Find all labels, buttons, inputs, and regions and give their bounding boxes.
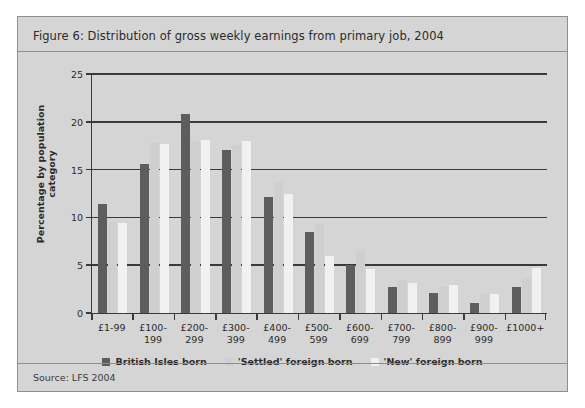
x-axis-tick-label-line: 199 — [132, 334, 173, 346]
plot-area: 0510152025 — [91, 74, 547, 314]
x-axis-ticks — [91, 314, 546, 320]
bar-group — [92, 74, 133, 313]
x-axis-tick — [545, 314, 547, 320]
x-axis-tick — [174, 314, 176, 320]
x-axis-tick — [463, 314, 465, 320]
bar-group — [382, 74, 423, 313]
legend-label: British Isles born — [115, 356, 206, 367]
bar-group — [299, 74, 340, 313]
x-axis-tick-label: £900-999 — [463, 322, 504, 345]
x-axis-tick-label: £300-399 — [215, 322, 256, 345]
bar — [480, 294, 489, 313]
bar — [439, 287, 448, 313]
x-axis-tick-label-line: £600- — [339, 322, 380, 334]
chart-legend: British Isles born'Settled' foreign born… — [18, 356, 567, 367]
x-axis-tick-label-line: £300- — [215, 322, 256, 334]
x-axis-tick-label-line: £200- — [174, 322, 215, 334]
bar — [398, 280, 407, 313]
bar-group — [423, 74, 464, 313]
bar — [201, 140, 210, 313]
bar — [408, 283, 417, 313]
x-axis-tick — [381, 314, 383, 320]
legend-label: 'Settled' foreign born — [238, 356, 353, 367]
x-axis-labels: £1-99£100-199£200-299£300-399£400-499£50… — [91, 322, 546, 345]
bar — [284, 194, 293, 313]
x-axis-tick-label-line: 299 — [174, 334, 215, 346]
bar — [222, 150, 231, 313]
x-axis-tick — [256, 314, 258, 320]
chart-area: Percentage by population category 051015… — [18, 51, 567, 365]
source-note: Source: LFS 2004 — [33, 372, 116, 383]
bar — [191, 141, 200, 313]
bar-group — [133, 74, 174, 313]
x-axis-tick-label-line: £700- — [381, 322, 422, 334]
bar-group — [257, 74, 298, 313]
y-axis-tick-label: 10 — [71, 212, 83, 223]
x-axis-tick-label: £500-599 — [298, 322, 339, 345]
bar-group — [216, 74, 257, 313]
x-axis-tick-label-line: £1-99 — [91, 322, 132, 334]
legend-swatch-icon — [371, 358, 379, 366]
x-axis-tick-label: £200-299 — [174, 322, 215, 345]
x-axis-tick-label-line: £900- — [463, 322, 504, 334]
bar — [315, 224, 324, 313]
source-divider — [18, 363, 567, 364]
bar — [522, 278, 531, 313]
legend-item: 'New' foreign born — [371, 356, 483, 367]
x-axis-tick — [298, 314, 300, 320]
x-axis-tick — [132, 314, 134, 320]
x-axis-tick-label-line: £500- — [298, 322, 339, 334]
bar — [325, 256, 334, 313]
bar — [140, 164, 149, 313]
x-axis-tick — [91, 314, 93, 320]
x-axis-tick — [505, 314, 507, 320]
bar — [356, 251, 365, 313]
x-axis-tick-label: £700-799 — [381, 322, 422, 345]
x-axis-tick-label-line: 499 — [256, 334, 297, 346]
figure-title: Figure 6: Distribution of gross weekly e… — [33, 29, 444, 43]
x-axis-tick-label: £100-199 — [132, 322, 173, 345]
x-axis-tick-label: £400-499 — [256, 322, 297, 345]
bar-group — [175, 74, 216, 313]
x-axis-tick-label-line: £100- — [132, 322, 173, 334]
x-axis-tick-label-line: 599 — [298, 334, 339, 346]
x-axis-tick — [215, 314, 217, 320]
bar — [264, 197, 273, 313]
bar — [490, 294, 499, 313]
x-axis-tick — [422, 314, 424, 320]
y-axis-tick-label: 20 — [71, 116, 83, 127]
bar-group — [506, 74, 547, 313]
bar — [150, 143, 159, 313]
bar — [512, 287, 521, 313]
x-axis-tick — [339, 314, 341, 320]
x-axis-tick-label-line: 399 — [215, 334, 256, 346]
x-axis-tick-label: £1-99 — [91, 322, 132, 345]
bar — [118, 223, 127, 313]
bar — [346, 265, 355, 313]
x-axis-tick-label-line: £400- — [256, 322, 297, 334]
bar-group — [464, 74, 505, 313]
legend-label: 'New' foreign born — [384, 356, 483, 367]
x-axis-tick-label-line: £800- — [422, 322, 463, 334]
bar — [160, 144, 169, 313]
bar — [305, 232, 314, 313]
x-axis-tick-label-line: £1000+ — [505, 322, 546, 334]
figure-page: Figure 6: Distribution of gross weekly e… — [0, 0, 585, 408]
bar — [429, 293, 438, 313]
x-axis-tick-label: £1000+ — [505, 322, 546, 345]
bar — [366, 269, 375, 313]
bar — [470, 303, 479, 313]
y-axis-title: Percentage by population category — [35, 84, 57, 264]
bar — [232, 145, 241, 313]
legend-item: 'Settled' foreign born — [225, 356, 353, 367]
x-axis-tick-label-line: 999 — [463, 334, 504, 346]
legend-item: British Isles born — [102, 356, 206, 367]
y-axis-tick-label: 0 — [77, 308, 83, 319]
y-axis-tick-label: 5 — [77, 260, 83, 271]
legend-swatch-icon — [102, 358, 110, 366]
bar — [181, 114, 190, 313]
y-axis-tick-label: 15 — [71, 164, 83, 175]
x-axis-tick-label-line: 699 — [339, 334, 380, 346]
bar-group — [340, 74, 381, 313]
bar — [388, 287, 397, 313]
